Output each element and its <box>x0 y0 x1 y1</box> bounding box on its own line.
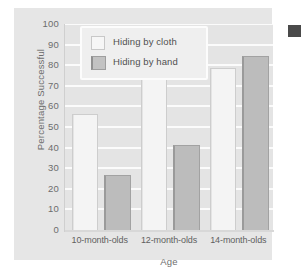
bar-hand-2 <box>242 56 269 230</box>
y-tick-label: 100 <box>15 19 59 29</box>
bar-cloth-1 <box>141 79 167 230</box>
legend-label-hand: Hiding by hand <box>113 56 178 67</box>
x-category-label: 12-month-olds <box>134 235 203 245</box>
y-tick-label: 80 <box>15 60 59 70</box>
figure-container: Percentage Successful Age 01020304050607… <box>0 0 301 274</box>
x-axis-line <box>65 230 274 232</box>
y-tick-label: 90 <box>15 40 59 50</box>
x-category-label: 10-month-olds <box>65 235 134 245</box>
bar-cloth-0 <box>72 114 98 230</box>
x-category-label: 14-month-olds <box>204 235 273 245</box>
y-tick-label: 10 <box>15 204 59 214</box>
y-tick-label: 40 <box>15 143 59 153</box>
x-axis-label: Age <box>65 256 273 267</box>
legend-label-cloth: Hiding by cloth <box>113 36 177 47</box>
y-tick-label: 20 <box>15 184 59 194</box>
page-edge-marker <box>288 25 301 37</box>
legend-swatch-hand-icon <box>91 56 106 70</box>
y-tick-label: 50 <box>15 122 59 132</box>
legend-swatch-cloth-icon <box>91 36 105 50</box>
bar-hand-1 <box>173 145 200 230</box>
y-tick-label: 0 <box>15 225 59 235</box>
legend: Hiding by cloth Hiding by hand <box>80 26 208 80</box>
chart-card: Percentage Successful Age 01020304050607… <box>14 8 272 260</box>
gridline <box>65 24 273 25</box>
y-tick-label: 70 <box>15 81 59 91</box>
bar-hand-0 <box>104 175 131 230</box>
bar-cloth-2 <box>210 68 236 230</box>
y-tick-label: 30 <box>15 163 59 173</box>
y-tick-label: 60 <box>15 101 59 111</box>
